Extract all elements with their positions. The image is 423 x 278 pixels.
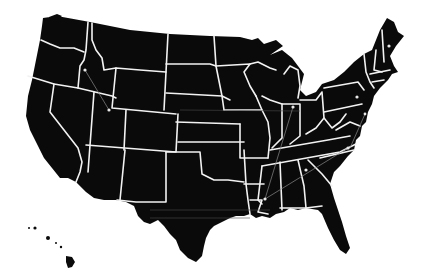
maryland-marker[interactable] xyxy=(364,113,367,116)
pennsylvania-marker[interactable] xyxy=(355,95,358,98)
hawaii-islands xyxy=(28,226,75,268)
indiana-marker[interactable] xyxy=(291,105,294,108)
georgia-marker[interactable] xyxy=(304,168,307,171)
us-map: United States map xyxy=(0,0,423,278)
mississippi-marker[interactable] xyxy=(263,197,266,200)
maine-marker[interactable] xyxy=(387,44,390,47)
us-map-svg xyxy=(0,0,423,278)
idaho-marker[interactable] xyxy=(83,68,86,71)
nevada-utah-marker[interactable] xyxy=(107,108,110,111)
north-carolina-marker[interactable] xyxy=(346,146,349,149)
